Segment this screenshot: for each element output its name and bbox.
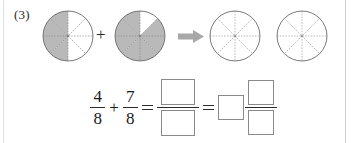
denominator: 8 xyxy=(123,109,138,128)
pie-circle-icon xyxy=(276,10,328,62)
pie-circle-icon xyxy=(42,10,94,62)
equals-sign-2 xyxy=(203,105,214,110)
pie-circle-icon xyxy=(114,10,166,62)
fraction-seven-eighths: 7 8 xyxy=(123,87,138,128)
fraction-four-eighths: 4 8 xyxy=(90,87,105,128)
worksheet-page: (3) + xyxy=(0,0,351,143)
answer-mixed-fraction xyxy=(245,80,277,135)
fraction-bar xyxy=(157,107,199,108)
right-arrow-icon xyxy=(178,29,204,42)
equals-sign-1 xyxy=(142,105,153,110)
equation-row: 4 8 + 7 8 xyxy=(0,74,351,140)
circle-4-diagram[interactable] xyxy=(276,10,328,62)
circle-2-diagram xyxy=(114,10,166,62)
circle-1-diagram xyxy=(42,10,94,62)
pie-circle-icon xyxy=(209,10,261,62)
arrow-glyph xyxy=(178,30,204,43)
numerator: 4 xyxy=(90,87,105,106)
answer-mixed-denominator-box[interactable] xyxy=(248,110,274,135)
plus-operator: + xyxy=(109,99,119,116)
figure-row: + xyxy=(0,0,351,70)
answer-mixed-numerator-box[interactable] xyxy=(248,80,274,105)
plus-symbol-figures: + xyxy=(96,26,106,43)
fraction-bar xyxy=(90,107,105,108)
answer-denominator-box[interactable] xyxy=(161,110,195,136)
answer-improper-fraction xyxy=(157,79,199,136)
answer-mixed-number xyxy=(218,80,277,135)
denominator: 8 xyxy=(90,109,105,128)
numerator: 7 xyxy=(123,87,138,106)
circle-3-diagram[interactable] xyxy=(209,10,261,62)
answer-whole-box[interactable] xyxy=(218,95,244,120)
fraction-bar xyxy=(245,107,277,108)
answer-numerator-box[interactable] xyxy=(161,79,195,105)
fraction-bar xyxy=(123,107,138,108)
